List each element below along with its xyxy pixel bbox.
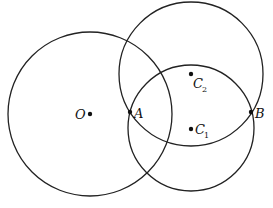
label-C2-subscript: 2 <box>202 85 207 94</box>
point-B-dot <box>249 110 253 114</box>
circles-diagram: O A B C 1 C 2 <box>0 0 273 208</box>
point-C1-dot <box>189 127 193 131</box>
point-A-dot <box>128 110 132 114</box>
label-O: O <box>75 107 86 122</box>
label-B: B <box>254 106 265 121</box>
point-O-dot <box>88 112 92 116</box>
label-C1-subscript: 1 <box>204 131 209 140</box>
label-A: A <box>133 106 143 121</box>
